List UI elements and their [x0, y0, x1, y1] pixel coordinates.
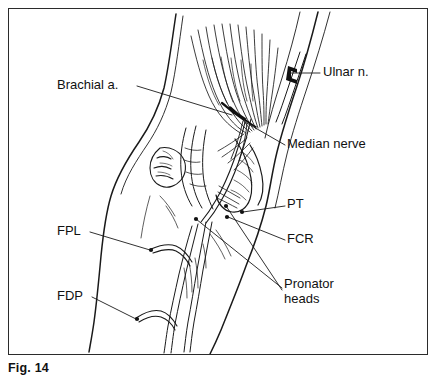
artery-distal-branches [231, 121, 247, 161]
figure-caption: Fig. 14 [8, 361, 49, 375]
anchor-dot-fcr [225, 215, 229, 219]
label-ulnar-nerve: Ulnar n. [323, 64, 369, 79]
label-flexor-digitorum-profundus: FDP [57, 288, 83, 303]
figure-container: Brachial a. Ulnar n. Median nerve PT FCR… [0, 0, 436, 382]
anchor-dot-pronator-ulnar [224, 204, 228, 208]
arm-medial-contour [89, 14, 176, 352]
label-brachial-artery: Brachial a. [57, 77, 118, 92]
leader-median-nerve [245, 122, 285, 145]
leader-fpl [90, 232, 150, 250]
anatomy-illustration [0, 0, 436, 382]
ulnar-nerve-marker [286, 66, 297, 84]
label-pronator-heads: Pronator heads [284, 276, 334, 306]
leader-brachial-a [137, 86, 232, 115]
label-pronator-teres: PT [287, 196, 304, 211]
arm-lateral-outer-line [265, 12, 300, 138]
arm-lateral-inner-line [275, 12, 330, 208]
anchor-dot-pronator-humeral [194, 217, 198, 221]
label-flexor-pollicis-longus: FPL [57, 223, 81, 238]
anchor-dot-fdp [135, 317, 139, 321]
anchor-dot-pt [240, 210, 244, 214]
medial-epicondyle [150, 148, 185, 188]
fascial-detail-lines [141, 196, 231, 259]
flexor-digitorum-superficialis-tendon [164, 224, 198, 353]
anchor-dot-fpl [149, 248, 153, 252]
label-median-nerve: Median nerve [287, 136, 366, 151]
epicondyle-shading [158, 151, 173, 175]
label-flexor-carpi-radialis: FCR [287, 231, 314, 246]
ulnar-nerve-structure [276, 52, 306, 124]
biceps-muscle-fibers [191, 24, 278, 134]
arm-medial-inner-line [121, 16, 183, 194]
leader-fdp [92, 297, 136, 319]
